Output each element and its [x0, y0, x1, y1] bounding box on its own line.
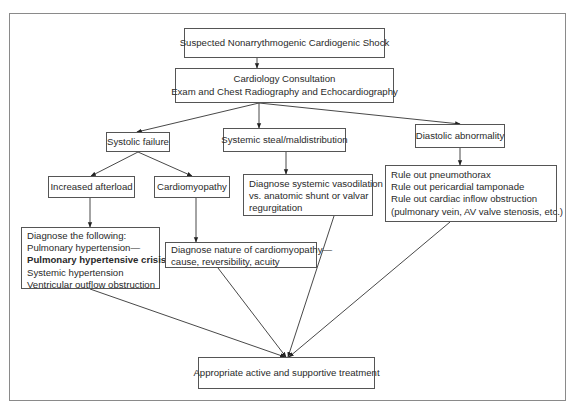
node-text: Appropriate active and supportive treatm… [193, 367, 379, 379]
node-text: Diagnose nature of cardiomyopathy— [171, 244, 311, 256]
node-diastolic-abnormality: Diastolic abnormality [415, 124, 505, 148]
node-text: Diastolic abnormality [416, 130, 505, 142]
node-text: Suspected Nonarrythmogenic Cardiogenic S… [180, 37, 390, 49]
node-cardiomyopathy: Cardiomyopathy [154, 176, 230, 198]
arrow-systolic-to-cardiomyopathy [138, 152, 192, 176]
node-treatment: Appropriate active and supportive treatm… [198, 357, 375, 389]
node-text: Rule out pneumothorax [391, 169, 551, 181]
node-text: Systolic failure [107, 136, 169, 148]
arrow-nature-to-treatment [218, 268, 286, 357]
node-text: (pulmonary vein, AV valve stenosis, etc.… [391, 206, 551, 218]
node-text: Systemic hypertension [27, 267, 154, 279]
node-text: Pulmonary hypertension— [27, 242, 154, 254]
node-text: Systemic steal/maldistribution [221, 134, 347, 146]
node-diagnose-following: Diagnose the following: Pulmonary hypert… [21, 227, 160, 289]
node-cardiomyopathy-nature: Diagnose nature of cardiomyopathy— cause… [165, 242, 317, 268]
node-text: Cardiology Consultation [234, 73, 336, 85]
node-systemic-steal: Systemic steal/maldistribution [223, 128, 346, 152]
node-text: cause, reversibility, acuity [171, 256, 311, 268]
node-rule-out: Rule out pneumothorax Rule out pericardi… [385, 165, 557, 222]
arrow-systolic-to-afterload [91, 152, 138, 176]
node-diagnose-vasodilation: Diagnose systemic vasodilation vs. anato… [243, 174, 373, 216]
node-text: Exam and Chest Radiography and Echocardi… [171, 86, 398, 98]
node-text: Cardiomyopathy [157, 181, 227, 193]
node-increased-afterload: Increased afterload [48, 176, 135, 198]
node-text: Rule out pericardial tamponade [391, 181, 551, 193]
node-systolic-failure: Systolic failure [106, 132, 170, 152]
node-cardiology-consultation: Cardiology Consultation Exam and Chest R… [175, 68, 394, 103]
arrow-consult-to-diastolic [259, 103, 460, 124]
node-text-emphasis: Pulmonary hypertensive crisis [27, 254, 154, 266]
node-text: Ventricular outflow obstruction [27, 279, 154, 291]
arrow-vasodilation-to-treatment [288, 216, 334, 357]
node-suspected-shock: Suspected Nonarrythmogenic Cardiogenic S… [184, 28, 385, 58]
node-text: regurgitation [249, 202, 367, 214]
node-text: Diagnose systemic vasodilation [249, 178, 367, 190]
node-text: Rule out cardiac inflow obstruction [391, 193, 551, 205]
node-text: Increased afterload [50, 181, 132, 193]
arrow-diagnose-to-treatment [90, 289, 285, 357]
node-text: Diagnose the following: [27, 230, 154, 242]
node-text: vs. anatomic shunt or valvar [249, 190, 367, 202]
